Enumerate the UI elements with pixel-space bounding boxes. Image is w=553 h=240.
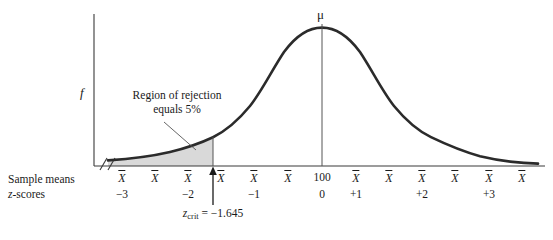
zcrit-subscript: crit (187, 211, 198, 221)
x-tick-mean-value: 100 (313, 172, 330, 184)
distribution-plot (0, 0, 553, 240)
callout-leader-line (164, 122, 196, 150)
x-tick-xbar-symbol: X (518, 172, 525, 184)
x-tick-xbar-symbol: X (184, 172, 191, 184)
x-tick-xbar-symbol: X (217, 172, 224, 184)
x-tick-xbar-symbol: X (284, 172, 291, 184)
zcrit-arrow-icon (209, 167, 217, 206)
x-tick-xbar-symbol: X (118, 172, 125, 184)
rejection-callout-line1: Region of rejection (115, 88, 239, 102)
x-tick-xbar-symbol: X (418, 172, 425, 184)
x-tick-zscore: +1 (350, 189, 362, 201)
mean-symbol-label: μ (317, 8, 324, 21)
y-axis-label: f (80, 86, 84, 99)
rejection-region-callout: Region of rejection equals 5% (115, 88, 239, 116)
rejection-callout-line2: equals 5% (115, 102, 239, 116)
x-tick-zscore: −3 (116, 189, 128, 201)
x-tick-xbar-symbol: X (385, 172, 392, 184)
x-tick-xbar-symbol: X (250, 172, 257, 184)
x-tick-zscore: +3 (483, 189, 495, 201)
x-tick-xbar-symbol: X (151, 172, 158, 184)
row-label-z-scores: z-scores (8, 189, 45, 201)
x-tick-zscore: 0 (319, 189, 325, 201)
x-tick-zscore: −1 (248, 189, 260, 201)
zcrit-value: = −1.645 (199, 207, 244, 219)
x-tick-zscore: −2 (182, 189, 194, 201)
row-label-sample-means: Sample means (8, 174, 75, 186)
x-tick-zscore: +2 (416, 189, 428, 201)
x-tick-xbar-symbol: X (352, 172, 359, 184)
figure-canvas: f μ Region of rejection equals 5% Sample… (0, 0, 553, 240)
x-tick-xbar-symbol: X (451, 172, 458, 184)
x-tick-xbar-symbol: X (485, 172, 492, 184)
zcrit-annotation: zcrit = −1.645 (183, 208, 243, 221)
